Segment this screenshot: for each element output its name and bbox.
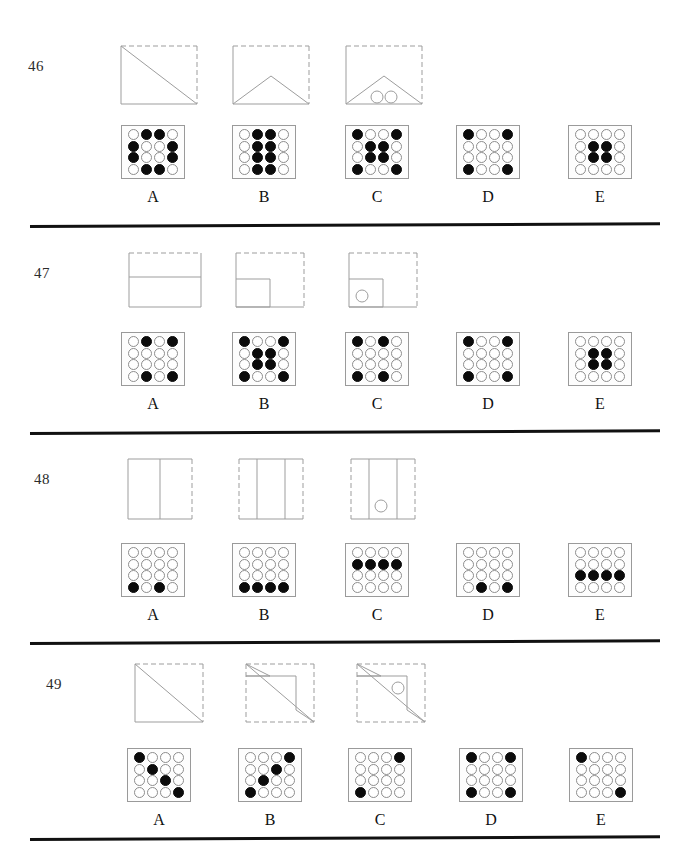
dot-grid-row <box>239 547 289 558</box>
dot-grid[interactable] <box>568 332 632 386</box>
answer-option-label: B <box>229 606 299 624</box>
answer-option-b[interactable]: B <box>229 125 299 206</box>
dot-filled <box>378 559 389 570</box>
dot-empty <box>141 547 152 558</box>
dot-filled <box>141 371 152 382</box>
dot-filled <box>588 141 599 152</box>
dot-empty <box>476 559 487 570</box>
dot-empty <box>352 570 363 581</box>
dot-empty <box>502 547 513 558</box>
dot-filled <box>265 582 276 593</box>
answer-option-label: A <box>118 188 188 206</box>
dot-grid[interactable] <box>348 748 412 802</box>
stimulus-figure-square-with-chevron-fold <box>232 45 310 105</box>
answer-option-d[interactable]: D <box>453 332 523 413</box>
dot-grid-row <box>463 336 513 347</box>
dot-grid-row <box>463 547 513 558</box>
dot-empty <box>128 559 139 570</box>
dot-grid[interactable] <box>232 543 296 597</box>
dot-grid[interactable] <box>121 543 185 597</box>
dot-grid[interactable] <box>569 748 633 802</box>
answer-option-e[interactable]: E <box>565 332 635 413</box>
dot-empty <box>128 570 139 581</box>
dot-filled <box>463 336 474 347</box>
dot-grid[interactable] <box>121 125 185 179</box>
answer-option-c[interactable]: C <box>342 332 412 413</box>
dot-grid[interactable] <box>121 332 185 386</box>
dot-empty <box>588 582 599 593</box>
dot-grid[interactable] <box>127 748 191 802</box>
dot-grid-row <box>128 570 178 581</box>
dot-empty <box>154 570 165 581</box>
dot-empty <box>614 129 625 140</box>
answer-option-d[interactable]: D <box>453 125 523 206</box>
dot-filled <box>575 570 586 581</box>
answer-option-c[interactable]: C <box>342 125 412 206</box>
dot-empty <box>265 371 276 382</box>
dot-filled <box>278 336 289 347</box>
dot-empty <box>391 547 402 558</box>
dot-grid[interactable] <box>232 332 296 386</box>
dot-filled <box>167 371 178 382</box>
answer-option-a[interactable]: A <box>118 332 188 413</box>
dot-empty <box>601 336 612 347</box>
answer-option-a[interactable]: A <box>118 543 188 624</box>
dot-filled <box>502 371 513 382</box>
answer-option-b[interactable]: B <box>229 332 299 413</box>
dot-grid-row <box>575 141 625 152</box>
dot-grid-row <box>239 348 289 359</box>
dot-grid[interactable] <box>345 125 409 179</box>
dot-filled <box>160 775 171 786</box>
answer-option-d[interactable]: D <box>456 748 526 829</box>
dot-grid[interactable] <box>568 543 632 597</box>
dot-filled <box>601 141 612 152</box>
dot-grid[interactable] <box>456 125 520 179</box>
dot-grid[interactable] <box>568 125 632 179</box>
dot-grid-row <box>134 764 184 775</box>
dot-empty <box>489 336 500 347</box>
answer-option-c[interactable]: C <box>342 543 412 624</box>
dot-grid-row <box>128 129 178 140</box>
dot-filled <box>147 764 158 775</box>
dot-grid-row <box>128 336 178 347</box>
dot-grid-row <box>352 164 402 175</box>
dot-empty <box>154 141 165 152</box>
dot-filled <box>173 787 184 798</box>
dot-grid[interactable] <box>456 332 520 386</box>
dot-empty <box>489 371 500 382</box>
dot-empty <box>502 348 513 359</box>
dot-filled <box>252 582 263 593</box>
dot-grid[interactable] <box>459 748 523 802</box>
answer-option-c[interactable]: C <box>345 748 415 829</box>
answer-option-b[interactable]: B <box>229 543 299 624</box>
dot-grid-row <box>463 371 513 382</box>
answer-option-e[interactable]: E <box>566 748 636 829</box>
dot-empty <box>489 141 500 152</box>
answer-option-e[interactable]: E <box>565 543 635 624</box>
answer-option-b[interactable]: B <box>235 748 305 829</box>
dot-empty <box>588 371 599 382</box>
dot-empty <box>141 582 152 593</box>
dot-empty <box>252 371 263 382</box>
dot-empty <box>489 152 500 163</box>
dot-grid[interactable] <box>238 748 302 802</box>
answer-option-e[interactable]: E <box>565 125 635 206</box>
dot-grid[interactable] <box>232 125 296 179</box>
answer-option-a[interactable]: A <box>118 125 188 206</box>
answer-option-label: D <box>453 188 523 206</box>
dot-empty <box>575 141 586 152</box>
dot-grid[interactable] <box>345 332 409 386</box>
dot-empty <box>128 547 139 558</box>
answer-option-d[interactable]: D <box>453 543 523 624</box>
dot-grid-row <box>575 359 625 370</box>
stimulus-figure-square-with-two-folds-and-hole <box>350 458 416 520</box>
dot-grid-row <box>575 152 625 163</box>
dot-empty <box>576 764 587 775</box>
answer-option-label: E <box>565 188 635 206</box>
dot-empty <box>489 164 500 175</box>
answer-option-a[interactable]: A <box>124 748 194 829</box>
dot-grid[interactable] <box>456 543 520 597</box>
stimulus-row <box>0 45 675 115</box>
dot-grid[interactable] <box>345 543 409 597</box>
dot-grid-row <box>575 371 625 382</box>
